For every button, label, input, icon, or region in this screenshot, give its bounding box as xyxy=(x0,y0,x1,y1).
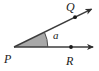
angle-diagram-canvas: P Q R a xyxy=(0,0,99,71)
point-label-q: Q xyxy=(66,0,75,14)
point-label-r: R xyxy=(65,54,74,68)
point-q-dot xyxy=(73,15,77,19)
angle-diagram-figure: P Q R a xyxy=(0,0,99,71)
point-r-dot xyxy=(69,45,73,49)
angle-label-a: a xyxy=(53,29,59,41)
vertex-label-p: P xyxy=(3,52,12,66)
